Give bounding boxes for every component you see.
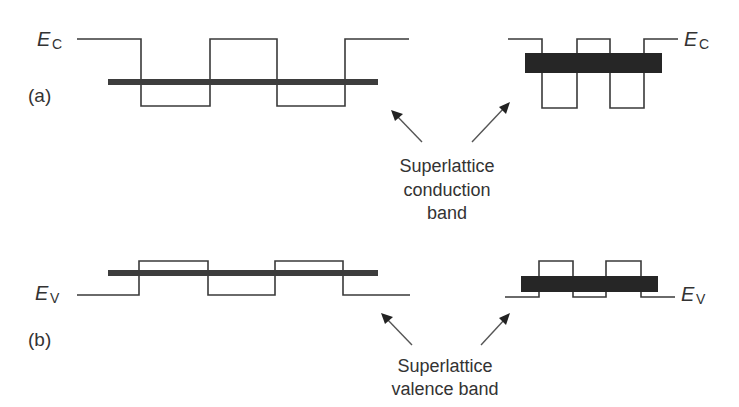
panel-a: E C (a) E C bbox=[28, 28, 709, 108]
arrow-line bbox=[472, 107, 505, 142]
ec-label-left-symbol: E bbox=[37, 28, 51, 50]
ec-label-right-symbol: E bbox=[684, 28, 698, 50]
arrow-line bbox=[481, 319, 505, 345]
ev-label-left-subscript: V bbox=[50, 290, 60, 306]
annotation-line: valence band bbox=[391, 379, 498, 399]
arrow-line bbox=[396, 115, 422, 142]
conduction-miniband-broad bbox=[525, 53, 662, 73]
ec-label-left-subscript: C bbox=[52, 36, 62, 52]
valence-arrows bbox=[381, 313, 510, 345]
annotation-line: Superlattice bbox=[399, 156, 494, 176]
panel-a-label: (a) bbox=[28, 85, 51, 106]
panel-b-label: (b) bbox=[28, 329, 51, 350]
conduction-miniband-narrow bbox=[108, 79, 378, 85]
superlattice-band-diagram: E C (a) E C Superlattice conduction band… bbox=[0, 0, 739, 407]
arrow-line bbox=[386, 318, 412, 345]
valence-miniband-broad bbox=[521, 276, 658, 292]
panel-b: E V (b) E V bbox=[28, 261, 706, 350]
conduction-arrows bbox=[391, 102, 510, 142]
conduction-annotation: Superlattice conduction band bbox=[399, 156, 494, 223]
ev-label-left-symbol: E bbox=[35, 282, 49, 304]
ev-label-right-subscript: V bbox=[696, 291, 706, 307]
annotation-line: Superlattice bbox=[397, 356, 492, 376]
ec-label-right-subscript: C bbox=[699, 36, 709, 52]
annotation-line: band bbox=[427, 203, 467, 223]
conduction-band-profile-wide-wells bbox=[77, 39, 409, 106]
valence-annotation: Superlattice valence band bbox=[391, 356, 498, 399]
valence-miniband-narrow bbox=[108, 270, 378, 276]
arrow-head-icon bbox=[381, 313, 393, 324]
annotation-line: conduction bbox=[403, 180, 490, 200]
valence-band-profile-wide-wells bbox=[77, 261, 410, 295]
arrow-head-icon bbox=[391, 110, 403, 121]
ev-label-right-symbol: E bbox=[681, 283, 695, 305]
conduction-band-profile-narrow-barriers bbox=[508, 39, 678, 108]
